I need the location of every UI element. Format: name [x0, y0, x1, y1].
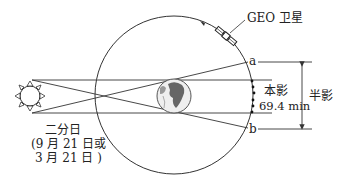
geo-satellite-icon	[215, 26, 237, 46]
point-a-label: a	[249, 54, 256, 68]
umbra-duration-label: 69.4 min	[259, 99, 311, 113]
earth-icon	[157, 79, 191, 113]
equinox-label-line3: 3 月 21 日 )	[35, 151, 102, 165]
umbra-label: 本影	[264, 84, 288, 98]
penumbra-label: 半影	[309, 89, 333, 103]
satellite-leader-line	[230, 20, 245, 33]
shadow-lines	[32, 62, 272, 128]
point-b-label: b	[249, 122, 257, 136]
geo-eclipse-diagram: GEO 卫星 a b 本影 69.4 min 半影 二分日 (9 月 21 日或…	[0, 0, 345, 181]
equinox-label-line1: 二分日	[45, 123, 81, 137]
equinox-label-line2: (9 月 21 日或	[31, 137, 106, 151]
satellite-label: GEO 卫星	[247, 11, 303, 25]
sun-icon	[15, 81, 45, 111]
